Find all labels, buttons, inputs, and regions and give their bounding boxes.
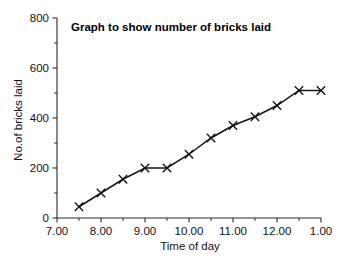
- y-axis-ticks: [53, 18, 58, 218]
- data-point-marker: [251, 113, 259, 121]
- x-axis-tick-label: 11.00: [219, 225, 247, 237]
- x-axis-ticks: [57, 218, 321, 223]
- y-axis-tick-label: 400: [30, 112, 49, 124]
- y-axis-tick-label: 600: [30, 62, 49, 74]
- data-point-marker: [207, 134, 215, 142]
- data-point-marker: [273, 101, 281, 109]
- data-point-markers: [75, 86, 325, 211]
- axes: [57, 18, 321, 218]
- data-point-marker: [119, 175, 127, 183]
- chart-container: 0200400600800 7.008.009.0010.0011.0012.0…: [0, 0, 343, 262]
- x-axis-tick-label: 8.00: [90, 225, 112, 237]
- y-axis-title: No.of bricks laid: [12, 79, 24, 161]
- x-axis-tick-label: 7.00: [46, 225, 68, 237]
- line-chart: 0200400600800 7.008.009.0010.0011.0012.0…: [0, 0, 343, 262]
- data-point-marker: [97, 189, 105, 197]
- x-axis-tick-label: 1.00: [310, 225, 332, 237]
- y-axis-tick-labels: 0200400600800: [30, 12, 49, 224]
- x-axis-tick-label: 12.00: [263, 225, 292, 237]
- data-series-line: [79, 91, 321, 207]
- y-axis-tick-label: 0: [43, 212, 49, 224]
- chart-title: Graph to show number of bricks laid: [71, 21, 271, 33]
- x-axis-tick-label: 9.00: [134, 225, 156, 237]
- x-axis-tick-labels: 7.008.009.0010.0011.0012.001.00: [46, 225, 332, 237]
- x-axis-title: Time of day: [160, 240, 220, 252]
- y-axis-tick-label: 800: [30, 12, 49, 24]
- x-axis-tick-label: 10.00: [175, 225, 204, 237]
- data-point-marker: [229, 121, 237, 129]
- data-point-marker: [75, 203, 83, 211]
- data-point-marker: [185, 150, 193, 158]
- y-axis-tick-label: 200: [30, 162, 49, 174]
